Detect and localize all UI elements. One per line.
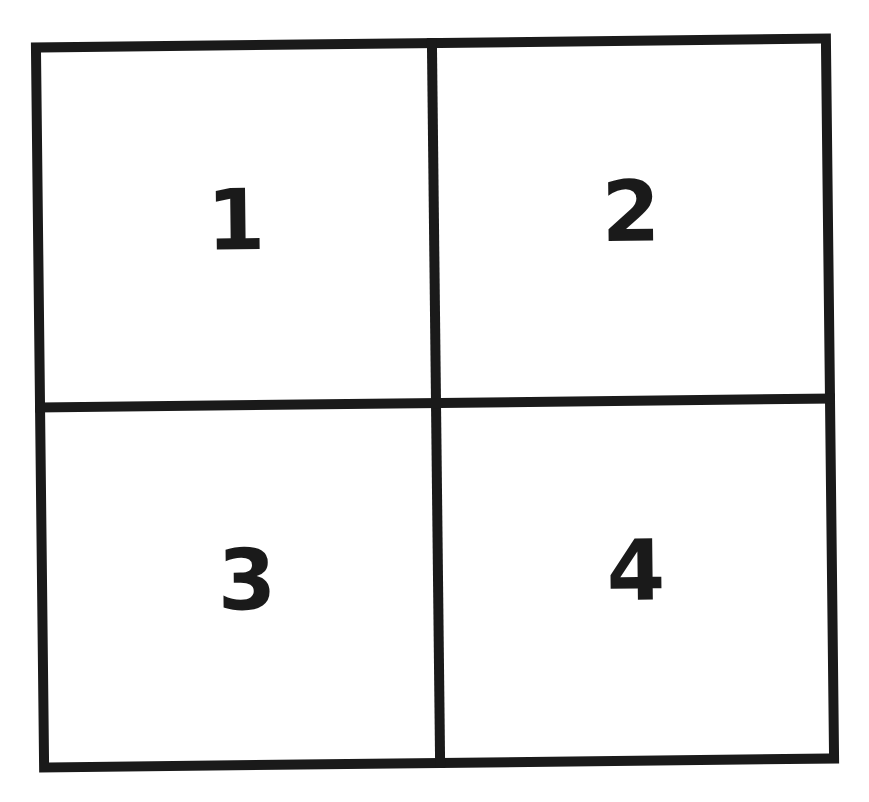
horizontal-divider: [40, 399, 830, 408]
quadrant-label-3: 3: [217, 531, 277, 630]
grid-diagram: 1 2 3 4: [0, 0, 869, 802]
quadrant-label-1: 1: [206, 171, 266, 270]
quadrant-label-2: 2: [601, 162, 661, 261]
quadrant-label-4: 4: [606, 521, 666, 620]
